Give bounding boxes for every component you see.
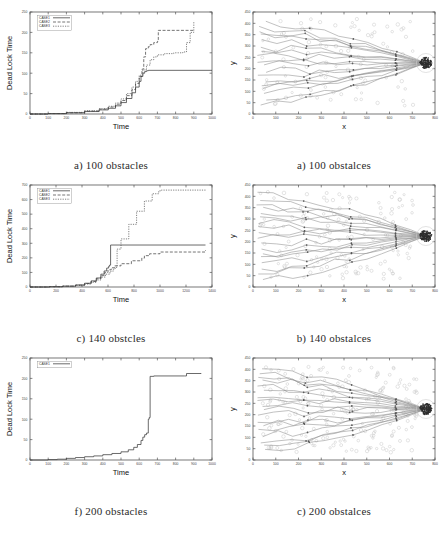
svg-text:50: 50 [247, 274, 251, 278]
scatter-plot-area-4: 0100200300400500600700800050100150200250… [223, 173, 445, 323]
svg-text:900: 900 [191, 116, 197, 120]
svg-text:150: 150 [245, 251, 251, 255]
svg-text:700: 700 [155, 116, 161, 120]
svg-text:100: 100 [273, 116, 279, 120]
svg-text:50: 50 [247, 101, 251, 105]
svg-text:600: 600 [387, 116, 393, 120]
svg-text:700: 700 [155, 462, 161, 466]
svg-text:250: 250 [245, 229, 251, 233]
svg-text:200: 200 [296, 462, 302, 466]
svg-text:y: y [228, 61, 237, 65]
svg-text:0: 0 [29, 116, 31, 120]
svg-text:Time: Time [113, 295, 129, 304]
scatter-plot-area-5: 0100200300400500600700800050100150200250… [223, 346, 445, 496]
svg-text:x: x [342, 468, 346, 477]
svg-text:100: 100 [45, 462, 51, 466]
svg-text:1000: 1000 [208, 116, 216, 120]
svg-text:0: 0 [249, 285, 251, 289]
svg-text:100: 100 [22, 271, 28, 275]
svg-text:150: 150 [245, 78, 251, 82]
line-chart-svg-1: 0200400600800100012001400010020030040050… [0, 173, 222, 323]
svg-text:500: 500 [364, 116, 370, 120]
svg-text:x: x [342, 295, 346, 304]
svg-text:600: 600 [105, 289, 111, 293]
svg-text:400: 400 [100, 462, 106, 466]
svg-text:CASE3: CASE3 [39, 24, 50, 28]
svg-text:300: 300 [82, 462, 88, 466]
scatter-plot-svg-5: 0100200300400500600700800050100150200250… [223, 346, 445, 496]
svg-text:250: 250 [22, 356, 28, 360]
svg-text:900: 900 [191, 462, 197, 466]
line-chart-plot-area-2: 0100200300400500600700800900100005010015… [0, 346, 222, 496]
line-chart-plot-area-1: 0200400600800100012001400010020030040050… [0, 173, 222, 323]
svg-text:100: 100 [22, 418, 28, 422]
svg-text:250: 250 [245, 56, 251, 60]
svg-text:100: 100 [245, 90, 251, 94]
panel-caption: a) 100 obstalces [223, 159, 445, 171]
svg-text:100: 100 [45, 116, 51, 120]
svg-text:1000: 1000 [156, 289, 164, 293]
svg-text:300: 300 [245, 217, 251, 221]
line-chart-svg-2: 0100200300400500600700800900100005010015… [0, 346, 222, 496]
panel-caption: c) 140 obstcles [0, 332, 222, 344]
svg-text:500: 500 [118, 462, 124, 466]
svg-text:600: 600 [387, 289, 393, 293]
panel-caption: b) 140 obstalces [223, 332, 445, 344]
svg-text:150: 150 [22, 51, 28, 55]
svg-text:350: 350 [245, 206, 251, 210]
svg-text:100: 100 [273, 289, 279, 293]
svg-text:0: 0 [252, 289, 254, 293]
scatter-plot-svg-3: 0100200300400500600700800050100150200250… [223, 0, 445, 150]
svg-text:100: 100 [245, 436, 251, 440]
svg-text:300: 300 [318, 462, 324, 466]
scatter-plot-area-3: 0100200300400500600700800050100150200250… [223, 0, 445, 150]
svg-text:300: 300 [245, 390, 251, 394]
figure-row-1: 0100200300400500600700800900100005010015… [0, 0, 445, 173]
svg-text:1400: 1400 [208, 289, 216, 293]
svg-text:800: 800 [432, 116, 438, 120]
svg-text:350: 350 [245, 379, 251, 383]
svg-text:0: 0 [26, 285, 28, 289]
svg-text:CASE3: CASE3 [39, 197, 50, 201]
svg-text:200: 200 [22, 377, 28, 381]
svg-text:450: 450 [245, 10, 251, 14]
svg-text:1200: 1200 [182, 289, 190, 293]
svg-text:800: 800 [173, 116, 179, 120]
scatter-plot-svg-4: 0100200300400500600700800050100150200250… [223, 173, 445, 323]
panel-caption: c) 200 obstalces [223, 505, 445, 517]
svg-text:0: 0 [29, 289, 31, 293]
svg-text:250: 250 [245, 402, 251, 406]
svg-text:800: 800 [432, 462, 438, 466]
svg-text:500: 500 [364, 462, 370, 466]
svg-text:450: 450 [245, 183, 251, 187]
figure-row-2: 0200400600800100012001400010020030040050… [0, 173, 445, 346]
svg-text:200: 200 [245, 413, 251, 417]
svg-text:700: 700 [409, 116, 415, 120]
panel-caption: f) 200 obstacles [0, 505, 222, 517]
svg-text:200: 200 [53, 289, 59, 293]
svg-text:700: 700 [409, 289, 415, 293]
panel-caption: a) 100 obstacles [0, 159, 222, 171]
panel-scatter-plot-140: 0100200300400500600700800050100150200250… [223, 173, 445, 346]
line-chart-plot-area-0: 0100200300400500600700800900100005010015… [0, 0, 222, 150]
svg-text:100: 100 [273, 462, 279, 466]
svg-text:500: 500 [22, 212, 28, 216]
svg-text:400: 400 [100, 116, 106, 120]
svg-text:1000: 1000 [208, 462, 216, 466]
svg-text:0: 0 [26, 458, 28, 462]
svg-text:400: 400 [341, 289, 347, 293]
svg-text:600: 600 [136, 116, 142, 120]
svg-text:400: 400 [245, 368, 251, 372]
svg-text:300: 300 [82, 116, 88, 120]
svg-text:0: 0 [252, 116, 254, 120]
svg-text:700: 700 [409, 462, 415, 466]
svg-text:200: 200 [64, 116, 70, 120]
svg-text:600: 600 [22, 198, 28, 202]
svg-text:0: 0 [252, 462, 254, 466]
svg-text:300: 300 [318, 289, 324, 293]
svg-text:y: y [228, 407, 237, 411]
svg-text:100: 100 [22, 72, 28, 76]
svg-text:300: 300 [318, 116, 324, 120]
svg-text:0: 0 [249, 458, 251, 462]
svg-text:300: 300 [22, 242, 28, 246]
